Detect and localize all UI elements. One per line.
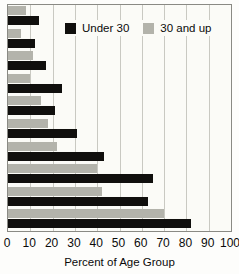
bar-30-and-up <box>8 187 102 196</box>
x-tick-label: 90 <box>201 236 214 250</box>
bar-under-30 <box>8 219 191 228</box>
bars-layer <box>8 5 231 231</box>
bar-group <box>8 163 231 186</box>
bar-30-and-up <box>8 74 30 83</box>
bar-30-and-up <box>8 119 48 128</box>
bar-30-and-up <box>8 164 97 173</box>
x-tick-label: 80 <box>179 236 192 250</box>
bar-under-30 <box>8 61 46 70</box>
x-tick-label: 20 <box>45 236 58 250</box>
legend-swatch-under-30-icon <box>65 23 76 34</box>
bar-30-and-up <box>8 51 33 60</box>
legend-entry-under-30: Under 30 <box>65 22 129 34</box>
bar-under-30 <box>8 174 153 183</box>
bar-under-30 <box>8 129 77 138</box>
bar-30-and-up <box>8 142 57 151</box>
bar-under-30 <box>8 16 39 25</box>
x-tick-label: 10 <box>23 236 36 250</box>
bar-30-and-up <box>8 209 164 218</box>
legend-label-30-and-up: 30 and up <box>160 22 211 34</box>
x-tick-label: 40 <box>90 236 103 250</box>
legend-entry-30-and-up: 30 and up <box>143 22 211 34</box>
bar-under-30 <box>8 84 62 93</box>
bar-under-30 <box>8 197 148 206</box>
bar-chart: Under 30 30 and up 010203040506070809010… <box>0 0 239 274</box>
bar-under-30 <box>8 152 104 161</box>
x-tick-label: 70 <box>156 236 169 250</box>
bar-30-and-up <box>8 96 41 105</box>
x-axis-tick-labels: 0102030405060708090100 <box>0 236 239 251</box>
x-tick-label: 60 <box>134 236 147 250</box>
bar-under-30 <box>8 39 35 48</box>
x-axis-title: Percent of Age Group <box>0 255 239 269</box>
bar-30-and-up <box>8 29 21 38</box>
x-tick-label: 50 <box>112 236 125 250</box>
bar-group <box>8 73 231 96</box>
chart-legend: Under 30 30 and up <box>62 20 214 36</box>
bar-group <box>8 50 231 73</box>
gridline <box>231 5 232 231</box>
bar-group <box>8 118 231 141</box>
bar-group <box>8 186 231 209</box>
bar-group <box>8 208 231 231</box>
bar-under-30 <box>8 106 55 115</box>
legend-label-under-30: Under 30 <box>82 22 129 34</box>
legend-swatch-30-and-up-icon <box>143 23 154 34</box>
bar-group <box>8 95 231 118</box>
bar-group <box>8 141 231 164</box>
x-tick-label: 30 <box>67 236 80 250</box>
plot-area <box>7 4 232 232</box>
x-tick-label: 100 <box>220 236 239 250</box>
x-tick-label: 0 <box>4 236 11 250</box>
bar-30-and-up <box>8 6 26 15</box>
